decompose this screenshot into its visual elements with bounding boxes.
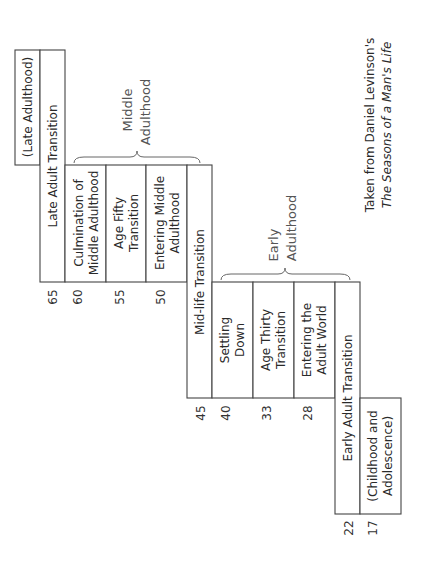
- entering-middle-label-1: Entering Middle: [153, 176, 167, 270]
- settling-down-label-1: Settling: [218, 317, 232, 363]
- age-label-45: 45: [194, 405, 208, 420]
- culmination-label-1: Culmination of: [72, 178, 86, 266]
- age-label-22: 22: [342, 520, 356, 535]
- late-adult-transition-label: Late Adult Transition: [46, 104, 60, 227]
- entering-middle-label-2: Adulthood: [168, 192, 182, 253]
- age-label-33: 33: [260, 405, 274, 420]
- age-thirty-label-1: Age Thirty: [259, 309, 273, 371]
- childhood-label-1: (Childhood and: [366, 410, 380, 501]
- age-label-28: 28: [301, 405, 315, 420]
- age-label-65: 65: [46, 289, 60, 304]
- childhood-label-2: Adolescence): [381, 416, 395, 496]
- middle-adulthood-era-label-2: Adulthood: [138, 79, 153, 145]
- early-adult-transition-label: Early Adult Transition: [341, 334, 355, 461]
- late-adulthood-label: (Late Adulthood): [21, 57, 35, 157]
- early-adulthood-brace: [221, 268, 350, 280]
- settling-down-label-2: Down: [233, 323, 247, 357]
- early-adulthood-era-label-2: Adulthood: [284, 195, 299, 261]
- age-label-50: 50: [154, 289, 168, 304]
- caption-line-1: Taken from Daniel Levinson's: [363, 38, 377, 213]
- middle-adulthood-brace: [74, 151, 200, 163]
- age-label-55: 55: [113, 289, 127, 304]
- mid-life-transition-label: Mid-life Transition: [193, 229, 207, 335]
- middle-adulthood-era-label-1: Middle: [120, 89, 135, 132]
- levinson-life-stages-diagram: (Late Adulthood) Late Adult Transition C…: [0, 0, 422, 566]
- age-label-40: 40: [219, 405, 233, 420]
- culmination-label-2: Middle Adulthood: [87, 171, 101, 276]
- entering-adult-world-label-2: Adult World: [315, 305, 329, 374]
- entering-adult-world-label-1: Entering the: [300, 303, 314, 377]
- caption-line-2: The Seasons of a Man's Life: [380, 42, 394, 209]
- age-fifty-label-1: Age Fifty: [112, 197, 126, 249]
- age-thirty-label-2: Transition: [274, 311, 288, 370]
- age-label-17: 17: [366, 520, 380, 535]
- age-label-60: 60: [71, 289, 85, 304]
- early-adulthood-era-label-1: Early: [266, 228, 281, 261]
- age-fifty-label-2: Transition: [127, 194, 141, 253]
